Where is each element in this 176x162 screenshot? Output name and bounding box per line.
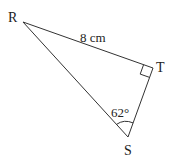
angle-arc-s — [117, 121, 134, 124]
side-rt — [23, 22, 153, 68]
vertex-label-t: T — [156, 60, 165, 75]
vertex-label-s: S — [124, 143, 132, 158]
triangle-diagram: R T S 8 cm 62° — [0, 0, 176, 162]
vertex-label-r: R — [8, 10, 18, 25]
angle-label: 62° — [111, 105, 129, 120]
side-length-label: 8 cm — [80, 30, 106, 45]
side-ts — [128, 68, 153, 137]
